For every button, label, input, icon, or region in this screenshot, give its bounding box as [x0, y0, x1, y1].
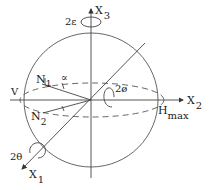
x1-label: X1: [29, 168, 44, 185]
phi-rotation-icon: [104, 88, 114, 107]
sphere-diagram: X3 2ε X2 Hmax 2ø V N1 N2 ∝ 2θ X1: [0, 0, 215, 190]
n2-tick: [62, 106, 64, 111]
alpha-tick: [62, 83, 64, 89]
x2-label: X2: [187, 94, 202, 111]
phi-label: 2ø: [115, 83, 127, 94]
hmax-label: Hmax: [158, 104, 189, 121]
theta-label: 2θ: [10, 151, 22, 162]
theta-rotation-icon: [30, 143, 46, 158]
n2-line: [43, 100, 91, 113]
alpha-label: ∝: [61, 72, 68, 83]
epsilon-label: 2ε: [65, 16, 77, 27]
v-label: V: [10, 86, 19, 97]
n1-label: N1: [36, 73, 51, 89]
x1-axis: [22, 43, 145, 169]
